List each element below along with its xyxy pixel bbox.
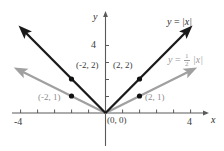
point-2-2 bbox=[137, 76, 142, 81]
origin-label: (0, 0) bbox=[107, 116, 127, 125]
x-tick-label-4: 4 bbox=[187, 117, 192, 127]
x-axis-label: x bbox=[211, 115, 215, 125]
point-label-neg2-1: (-2, 1) bbox=[38, 93, 61, 102]
equation-black-rhs: |x| bbox=[182, 16, 192, 27]
point-neg2-2 bbox=[69, 76, 74, 81]
point-label-2-1: (2, 1) bbox=[145, 93, 165, 102]
y-tick-label-4: 4 bbox=[91, 40, 96, 50]
y-axis bbox=[106, 15, 110, 146]
equation-gray-eq: = bbox=[175, 54, 181, 65]
equation-black-eq: = bbox=[174, 16, 180, 27]
fraction-one-half: 1 2 bbox=[184, 53, 190, 69]
x-tick-label-neg4: -4 bbox=[14, 117, 22, 127]
absolute-value-graph-figure: y x 4 -4 4 (0, 0) (-2, 2) (2, 2) (-2, 1)… bbox=[0, 0, 224, 151]
point-neg2-1 bbox=[69, 93, 74, 98]
equation-gray-rhs: |x| bbox=[193, 54, 203, 65]
equation-gray-lhs: y bbox=[168, 54, 172, 65]
equation-label-half-abs-x: y = 1 2 |x| bbox=[168, 53, 203, 69]
y-axis-label: y bbox=[93, 12, 97, 22]
fraction-denominator: 2 bbox=[184, 61, 190, 68]
point-2-1 bbox=[137, 93, 142, 98]
equation-label-abs-x: y = |x| bbox=[167, 17, 192, 27]
equation-black-lhs: y bbox=[167, 16, 171, 27]
point-label-neg2-2: (-2, 2) bbox=[76, 61, 99, 70]
point-label-2-2: (2, 2) bbox=[113, 61, 133, 70]
